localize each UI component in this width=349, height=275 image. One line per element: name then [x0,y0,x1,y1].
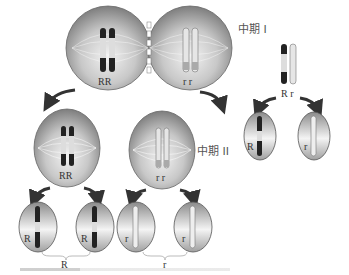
arrow-icon [34,188,50,200]
arrow-icon [180,190,194,200]
metaphase-1-cell [66,6,232,90]
gamete-1 [19,202,57,252]
gamete-4 [174,202,212,252]
faint-caption-strip [20,268,230,271]
gamete-label-4: r [182,233,185,244]
meiosis-diagram [0,0,349,275]
allele-label-mii-right: r r [156,172,165,183]
stage-label-metaphase-1: 中期 I [238,20,267,36]
gamete-label-2: R [81,233,88,244]
side-gamete-R [244,112,276,160]
stage-label-metaphase-2: 中期 II [197,142,229,158]
side-panel-pair [281,44,296,84]
gamete-2 [76,202,114,252]
arrow-icon [200,92,222,106]
allele-label-top-left: RR [98,76,111,87]
allele-label-mii-left: RR [59,170,72,181]
arrow-icon [300,98,318,110]
side-gamete-r [298,112,330,160]
side-gamete-label-r: r [304,141,307,152]
gamete-label-3: r [125,233,128,244]
arrow-icon [258,98,276,110]
allele-label-top-right: r r [183,76,192,87]
gamete-label-1: R [24,233,31,244]
arrow-icon [132,190,146,200]
arrow-icon [48,90,75,104]
side-pair-label: R r [281,88,294,99]
arrow-icon [84,188,98,200]
side-gamete-label-R: R [247,141,254,152]
gamete-3 [117,202,155,252]
